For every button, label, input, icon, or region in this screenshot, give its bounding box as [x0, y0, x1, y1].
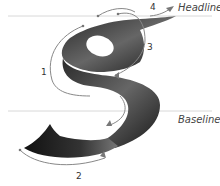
- letter-s-diagram: Headline Baseline 4 3 1 2: [0, 0, 220, 186]
- step-1-label: 1: [41, 67, 47, 77]
- step-4-label: 4: [150, 2, 156, 12]
- baseline-label: Baseline: [178, 114, 220, 125]
- s-top-stroke: [62, 16, 176, 72]
- headline-label: Headline: [178, 2, 220, 13]
- diagram-canvas: [0, 0, 220, 186]
- s-spine-stroke: [63, 58, 160, 148]
- arrow-3-top: [98, 9, 135, 16]
- step-2-label: 2: [76, 171, 82, 181]
- step-3-label: 3: [147, 42, 153, 52]
